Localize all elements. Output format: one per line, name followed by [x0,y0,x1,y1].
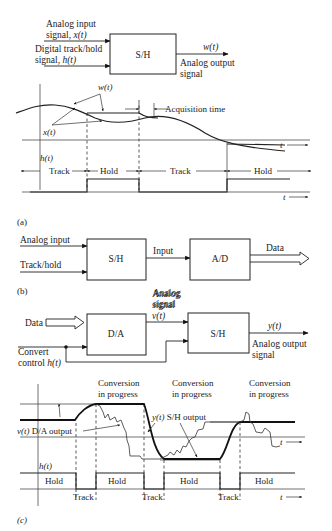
t-label-c-top: t [280,437,283,447]
da-output-pointer [83,425,120,431]
figure-c-waveform: Conversion in progress Conversion in pro… [17,378,305,525]
analog-label-c: Analog [152,289,180,299]
analog-input-signal-label: signal, x(t) [46,30,87,41]
caption-c: (c) [17,515,27,525]
sample-hold-figure: Analog input signal, x(t) Digital track/… [0,0,332,531]
caption-a: (a) [17,217,27,227]
w-label: w(t) [98,82,113,92]
analog-output-signal-label-c: signal [252,350,275,360]
hold-label-2: Hold [108,476,127,486]
hold-label-4: Hold [255,476,274,486]
da-output-label: v(t) D/A output [17,426,73,436]
sh-block-label: S/H [136,50,151,60]
da-block-label: D/A [108,329,125,339]
v-label-c: v(t) [152,311,165,322]
w-pointer-1 [74,94,100,104]
phase-track-1: Track [49,166,70,176]
track-hold-label-b: Track/hold [20,260,62,270]
analog-input-label-b: Analog input [20,235,70,245]
track-label-3: Track [218,492,239,502]
phase-track-2: Track [170,166,191,176]
conversion-3-line1: Conversion [249,378,291,388]
caption-b: (b) [17,286,28,296]
input-label-b: Input [153,246,173,256]
convert-label: Convert [18,347,49,357]
signal-label-c: signal [152,300,175,310]
h-label-c: h(t) [39,461,52,471]
conversion-1-line2: in progress [98,389,138,399]
figure-a-waveform: t w(t) x(t) Acquisition time h(t) Track … [16,82,311,227]
track-label-2: Track [142,492,163,502]
h-label: h(t) [40,153,53,163]
analog-output-label: Analog output [180,58,235,68]
sh-output-label: y(t) S/H output [151,412,207,422]
sh-block-b-label: S/H [109,254,124,264]
ad-block-label: A/D [212,254,229,264]
sh-output-pointer [180,423,197,457]
t-label-bottom: t [283,192,286,202]
conversion-1-line1: Conversion [98,378,140,388]
hold-label-3: Hold [180,476,199,486]
da-output-pointer [59,404,60,417]
control-label: control h(t) [18,358,61,369]
conversion-2-line1: Conversion [172,378,214,388]
x-pointer-1 [52,108,75,125]
data-input-arrow-c [46,316,84,329]
data-output-arrow-b [250,252,309,265]
digital-signal-label: signal, h(t) [35,55,76,66]
track-label-1: Track [73,492,94,502]
data-input-label-c: Data [25,318,44,328]
analog-output-signal-label: signal [180,69,203,79]
figure-a-block-diagram: Analog input signal, x(t) Digital track/… [35,19,235,79]
digital-track-hold-label: Digital track/hold [35,44,103,54]
x-label: x(t) [42,127,56,137]
w-pointer-2 [100,94,103,111]
output-w-label: w(t) [203,42,218,53]
analog-input-label: Analog input [46,19,96,29]
sh-block-c-label: S/H [211,329,226,339]
t-label-c-bottom: t [280,492,283,502]
phase-hold-2: Hold [254,166,273,176]
analog-output-label-c: Analog output [252,339,307,349]
hold-label-1: Hold [45,476,64,486]
y-label-c: y(t) [267,321,281,332]
data-label-b: Data [266,243,285,253]
acquisition-time-label: Acquisition time [165,104,225,114]
conversion-3-line2: in progress [249,389,289,399]
x-pointer-2 [52,121,102,125]
h-square-wave [30,179,290,192]
figure-c-block-diagram: Data D/A Analog signal v(t) S/H y(t) Ana… [18,289,308,369]
conversion-2-line2: in progress [172,389,212,399]
phase-hold-1: Hold [100,166,119,176]
